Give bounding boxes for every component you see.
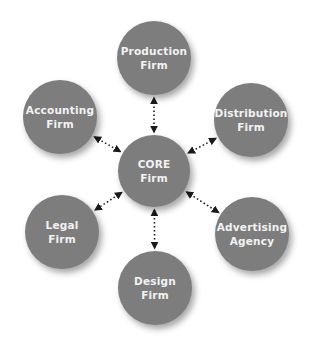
node-core-line1: CORE xyxy=(138,157,171,171)
node-advertising: Advertising Agency xyxy=(215,197,289,271)
node-legal-line1: Legal xyxy=(45,218,78,232)
node-production-line1: Production xyxy=(121,44,188,58)
node-distribution-line2: Firm xyxy=(237,120,265,134)
node-legal: Legal Firm xyxy=(25,195,99,269)
hub-spoke-diagram: Production Firm Distribution Firm Advert… xyxy=(0,0,310,346)
connector-core-advertising xyxy=(187,192,219,212)
connector-core-legal xyxy=(95,193,121,210)
connector-core-distribution xyxy=(189,139,216,153)
node-design-line2: Firm xyxy=(141,288,169,302)
node-advertising-line2: Agency xyxy=(230,234,275,248)
node-production-line2: Firm xyxy=(140,58,168,72)
node-accounting-line2: Firm xyxy=(46,117,74,131)
node-accounting-line1: Accounting xyxy=(26,103,94,117)
connector-core-accounting xyxy=(95,137,120,152)
node-core-line2: Firm xyxy=(140,171,168,185)
node-distribution: Distribution Firm xyxy=(214,83,288,157)
node-legal-line2: Firm xyxy=(48,232,76,246)
node-accounting: Accounting Firm xyxy=(23,80,97,154)
node-design-line1: Design xyxy=(134,274,176,288)
node-core: CORE Firm xyxy=(118,135,190,207)
node-distribution-line1: Distribution xyxy=(214,106,287,120)
node-advertising-line1: Advertising xyxy=(217,220,287,234)
node-production: Production Firm xyxy=(117,21,191,95)
node-design: Design Firm xyxy=(118,251,192,325)
